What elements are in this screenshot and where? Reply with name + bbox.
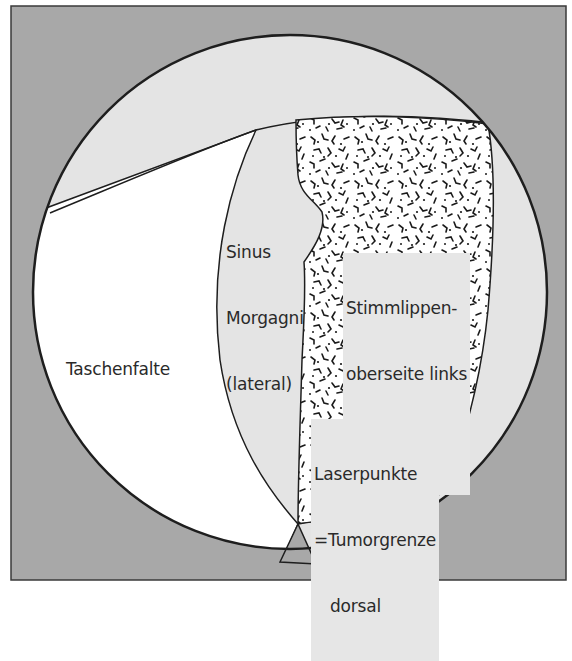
label-line: Taschenfalte [66, 358, 170, 380]
label-line: Stimmlippen- [346, 297, 467, 319]
label-line: (lateral) [226, 373, 304, 395]
label-line: Sinus [226, 241, 304, 263]
taschenfalte-label: Taschenfalte [66, 314, 170, 424]
label-line: Morgagni [226, 307, 304, 329]
label-line: oberseite links [346, 363, 467, 385]
label-line: Laserpunkte [314, 463, 436, 485]
label-line: =Tumorgrenze [314, 529, 436, 551]
label-line: dorsal [314, 595, 436, 617]
laser-points-label: Laserpunkte =Tumorgrenze dorsal [311, 419, 439, 661]
sinus-morgagni-label: Sinus Morgagni (lateral) [226, 197, 304, 439]
